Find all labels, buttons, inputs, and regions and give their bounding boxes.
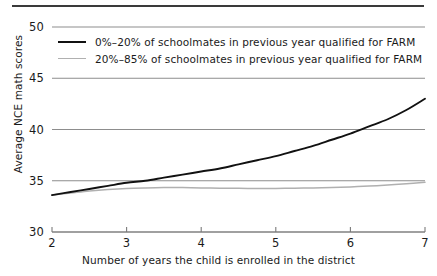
x-tick-label: 2 [44, 236, 60, 250]
light-line-swatch-icon [58, 58, 86, 59]
chart-figure: 3035404550 234567 Average NCE math score… [0, 0, 437, 276]
y-tick-label: 30 [22, 225, 44, 239]
x-tick-label: 5 [268, 236, 284, 250]
y-tick-label: 40 [22, 123, 44, 137]
legend-item: 20%–85% of schoolmates in previous year … [58, 50, 422, 67]
legend-item: 0%–20% of schoolmates in previous year q… [58, 33, 422, 50]
x-tick-label: 3 [119, 236, 135, 250]
series-line-20-85-farm [52, 182, 425, 195]
y-tick-label: 35 [22, 174, 44, 188]
x-tick-label: 6 [342, 236, 358, 250]
x-tick-label: 7 [417, 236, 433, 250]
legend-item-label: 20%–85% of schoolmates in previous year … [95, 53, 422, 65]
x-axis-title: Number of years the child is enrolled in… [0, 254, 437, 266]
x-tick-label: 4 [193, 236, 209, 250]
dark-line-swatch-icon [58, 41, 86, 43]
legend-item-label: 0%–20% of schoolmates in previous year q… [95, 36, 415, 48]
y-tick-label: 45 [22, 71, 44, 85]
y-tick-label: 50 [22, 20, 44, 34]
chart-legend: 0%–20% of schoolmates in previous year q… [58, 33, 422, 67]
y-axis-title: Average NCE math scores [12, 34, 24, 174]
xtick-group [52, 227, 425, 232]
